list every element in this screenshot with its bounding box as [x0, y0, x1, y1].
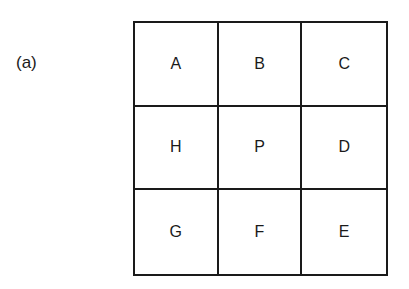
- figure-label: (a): [16, 53, 37, 73]
- cell-top-right: C: [302, 23, 386, 107]
- neighborhood-grid: A B C H P D G F E: [133, 21, 388, 276]
- cell-center: P: [219, 107, 303, 191]
- cell-bottom-left: G: [135, 190, 219, 274]
- cell-top-left: A: [135, 23, 219, 107]
- cell-middle-left: H: [135, 107, 219, 191]
- cell-top-center: B: [219, 23, 303, 107]
- cell-bottom-center: F: [219, 190, 303, 274]
- cell-bottom-right: E: [302, 190, 386, 274]
- cell-middle-right: D: [302, 107, 386, 191]
